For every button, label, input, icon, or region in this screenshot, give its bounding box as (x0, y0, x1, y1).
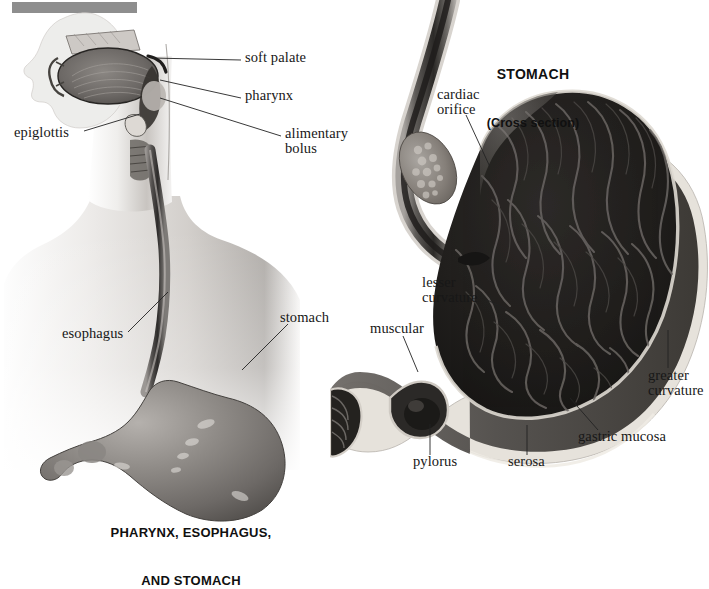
label-muscular: muscular (370, 321, 424, 337)
caption-line-2: AND STOMACH (60, 573, 322, 589)
label-pylorus: pylorus (413, 454, 457, 470)
caption-line-1: PHARYNX, ESOPHAGUS, (60, 525, 322, 541)
left-figure-panel (0, 0, 340, 533)
label-greater-curvature-line2: curvature (648, 383, 704, 399)
label-alimentary-bolus-line2: bolus (285, 141, 317, 157)
right-figure-subtitle: (Cross section) (440, 116, 626, 132)
label-epiglottis: epiglottis (14, 125, 69, 141)
pharynx-esophagus-stomach-illustration (0, 0, 340, 533)
label-soft-palate: soft palate (245, 50, 306, 66)
left-figure-caption: PHARYNX, ESOPHAGUS, AND STOMACH (60, 492, 322, 589)
label-serosa: serosa (508, 454, 545, 470)
label-pharynx: pharynx (245, 88, 293, 104)
label-cardiac-orifice-line2: orifice (437, 102, 476, 118)
label-gastric-mucosa: gastric mucosa (578, 429, 666, 445)
label-stomach: stomach (280, 310, 329, 326)
right-figure-title: STOMACH (440, 66, 626, 84)
label-esophagus: esophagus (62, 326, 123, 342)
label-lesser-curvature-line2: curvature (422, 290, 478, 306)
